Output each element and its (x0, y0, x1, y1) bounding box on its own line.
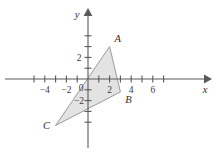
x-tick-label: −4 (40, 85, 50, 95)
vertex-label-b: B (125, 94, 132, 105)
y-tick-label: 2 (77, 53, 82, 63)
origin-label: 0 (79, 83, 84, 93)
coordinate-plane-figure: −4−2246 2−2 0 x y ABC (0, 0, 216, 153)
x-tick-label: 2 (107, 85, 112, 95)
x-axis-label: x (202, 84, 208, 95)
vertex-label-a: A (113, 33, 121, 44)
y-tick-label: −2 (74, 96, 84, 106)
x-tick-label: 6 (150, 85, 155, 95)
plot-svg: −4−2246 2−2 0 x y ABC (0, 0, 216, 153)
x-tick-label: −2 (61, 85, 71, 95)
vertex-label-c: C (43, 120, 51, 131)
x-axis-arrowhead (204, 75, 212, 84)
y-axis-arrowhead (84, 8, 93, 16)
y-axis-label: y (74, 9, 80, 20)
